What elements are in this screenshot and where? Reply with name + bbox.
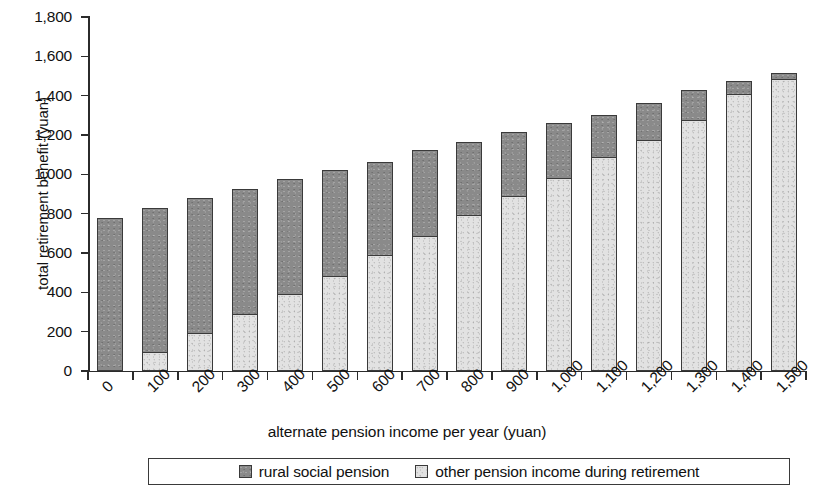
x-axis-tick <box>87 371 89 380</box>
bar-segment-other-pension-income <box>501 196 527 371</box>
y-axis-tick-label: 400 <box>8 284 72 300</box>
bar-group <box>187 198 213 371</box>
y-axis-tick-label: 1,400 <box>8 88 72 104</box>
x-axis-tick <box>446 371 448 380</box>
x-axis-title: alternate pension income per year (yuan) <box>0 423 814 441</box>
bar-segment-rural-social-pension <box>187 198 213 334</box>
legend-label-other-pension-income: other pension income during retirement <box>435 463 699 481</box>
x-axis-tick-label: 0 <box>99 378 116 395</box>
bar-group <box>501 132 527 371</box>
x-axis-tick <box>222 371 224 380</box>
bar-segment-other-pension-income <box>546 178 572 371</box>
bar-segment-rural-social-pension <box>232 189 258 315</box>
y-axis-tick-label: 1,600 <box>8 48 72 64</box>
bar-segment-rural-social-pension <box>456 142 482 216</box>
bar-group <box>771 73 797 371</box>
legend-swatch-dark-icon <box>239 465 252 478</box>
bar-segment-other-pension-income <box>771 79 797 371</box>
bar-segment-other-pension-income <box>681 120 707 371</box>
legend-swatch-light-icon <box>415 465 428 478</box>
bar-group <box>322 170 348 371</box>
bar-segment-rural-social-pension <box>367 162 393 256</box>
legend-label-rural-social-pension: rural social pension <box>259 463 390 481</box>
bar-group <box>142 208 168 371</box>
bar-segment-other-pension-income <box>277 294 303 371</box>
bar-segment-rural-social-pension <box>681 90 707 121</box>
y-axis-tick-label: 1,000 <box>8 166 72 182</box>
stacked-bar-chart: total retirement benefit (yuan) 02004006… <box>0 0 814 490</box>
bar-segment-rural-social-pension <box>97 218 123 371</box>
x-axis-tick <box>401 371 403 380</box>
chart-legend: rural social pension other pension incom… <box>148 458 790 485</box>
y-axis-tick-label: 200 <box>8 324 72 340</box>
bar-segment-other-pension-income <box>412 236 438 371</box>
bar-group <box>412 150 438 371</box>
bar-group <box>726 81 752 371</box>
x-axis-tick <box>491 371 493 380</box>
bar-segment-other-pension-income <box>591 157 617 371</box>
legend-item-other-pension-income: other pension income during retirement <box>415 463 699 481</box>
bar-segment-rural-social-pension <box>277 179 303 295</box>
bar-segment-other-pension-income <box>636 140 662 371</box>
y-axis-tick-label: 600 <box>8 245 72 261</box>
y-axis-tick-label: 1,800 <box>8 9 72 25</box>
bar-group <box>546 123 572 371</box>
x-axis-tick <box>536 371 538 380</box>
bar-group <box>367 162 393 371</box>
bar-group <box>456 142 482 371</box>
x-axis-tick <box>132 371 134 380</box>
bar-segment-other-pension-income <box>367 255 393 371</box>
bar-segment-other-pension-income <box>232 314 258 371</box>
bar-group <box>277 179 303 371</box>
bar-segment-other-pension-income <box>187 333 213 371</box>
bars-container <box>88 17 807 371</box>
y-axis-tick-label: 0 <box>8 363 72 379</box>
y-axis-tick-label: 800 <box>8 206 72 222</box>
legend-item-rural-social-pension: rural social pension <box>239 463 390 481</box>
bar-segment-rural-social-pension <box>501 132 527 197</box>
x-axis-tick <box>357 371 359 380</box>
bar-segment-rural-social-pension <box>412 150 438 238</box>
bar-segment-rural-social-pension <box>322 170 348 277</box>
x-axis-tick <box>267 371 269 380</box>
x-axis-tick <box>312 371 314 380</box>
bar-segment-other-pension-income <box>456 215 482 371</box>
bar-segment-rural-social-pension <box>142 208 168 354</box>
x-axis-tick <box>177 371 179 380</box>
bar-segment-rural-social-pension <box>591 115 617 158</box>
bar-segment-rural-social-pension <box>636 103 662 141</box>
bar-group <box>591 115 617 371</box>
bar-group <box>97 218 123 371</box>
bar-segment-rural-social-pension <box>546 123 572 179</box>
bar-segment-other-pension-income <box>726 94 752 371</box>
bar-group <box>232 189 258 371</box>
bar-group <box>681 90 707 371</box>
bar-segment-other-pension-income <box>322 276 348 371</box>
y-axis-tick-label: 1,200 <box>8 127 72 143</box>
bar-group <box>636 103 662 371</box>
